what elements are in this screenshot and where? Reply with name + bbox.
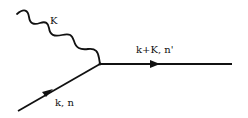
vertex bbox=[99, 63, 102, 66]
feynman-diagram: K k+K, n' k, n bbox=[0, 0, 248, 118]
outgoing-label: k+K, n' bbox=[136, 44, 173, 55]
photon-label: K bbox=[50, 15, 58, 26]
outgoing-arrow-icon bbox=[150, 60, 160, 68]
incoming-label: k, n bbox=[55, 97, 74, 108]
photon-wavy-line bbox=[17, 10, 100, 64]
